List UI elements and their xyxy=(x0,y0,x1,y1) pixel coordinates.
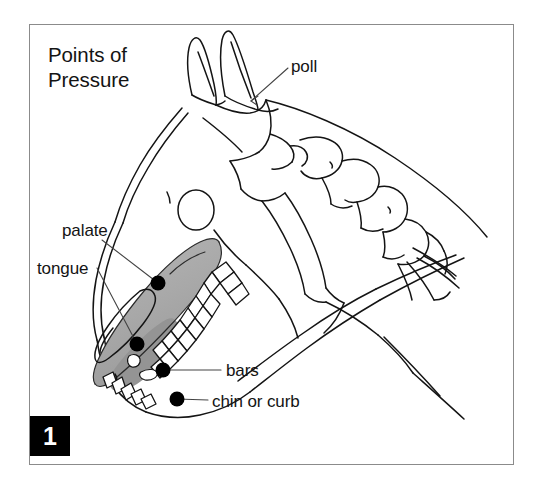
label-poll: poll xyxy=(291,57,317,77)
occipital-lower xyxy=(230,152,259,161)
cheek-lower xyxy=(279,299,298,338)
skull-forehead-outer xyxy=(115,108,182,222)
mandible-angle xyxy=(305,294,326,302)
label-chin-or-curb: chin or curb xyxy=(212,392,300,412)
label-tongue: tongue xyxy=(37,259,88,279)
neck-crease-line xyxy=(384,337,440,396)
figure-title: Points of Pressure xyxy=(48,42,129,92)
jowl-curve xyxy=(326,302,378,335)
figure-title-line-2: Pressure xyxy=(48,67,129,92)
mandible-ramus-back xyxy=(285,193,326,288)
occipital-condyle-lower xyxy=(272,162,292,169)
mandible-angle-back xyxy=(326,288,344,303)
bars-point-marker xyxy=(156,363,171,378)
jaw-line-lower-extend xyxy=(380,258,464,300)
chin-or-curb-point-marker xyxy=(170,392,185,407)
throat-latch xyxy=(378,335,413,373)
jaw-line-upper xyxy=(238,289,376,381)
figure-root: Points of Pressure poll palate tongue ba… xyxy=(0,0,543,497)
tongue-point-marker xyxy=(130,337,145,352)
occipital-condyle xyxy=(270,134,294,162)
eye-socket xyxy=(178,190,214,230)
leader-poll xyxy=(251,68,288,101)
label-bars: bars xyxy=(226,361,259,381)
ear-gap xyxy=(216,101,225,105)
neck-under-line xyxy=(413,373,464,419)
facial-crest-tick xyxy=(167,192,170,203)
cheek-mid xyxy=(246,265,279,299)
label-palate: palate xyxy=(62,221,108,241)
cervical-vertebrae xyxy=(300,137,447,274)
ear-front-icon xyxy=(188,38,217,105)
cranium-detail-1 xyxy=(203,118,242,152)
cranium-detail-4 xyxy=(262,193,285,201)
cranium-detail-3 xyxy=(241,189,262,201)
figure-title-line-1: Points of xyxy=(48,42,129,67)
cranium-detail-2 xyxy=(230,161,241,189)
ear-rear-icon xyxy=(221,31,258,110)
leader-palate xyxy=(102,240,158,283)
figure-number-badge: 1 xyxy=(30,416,70,456)
palate-point-marker xyxy=(151,276,166,291)
jaw-line-lower xyxy=(250,300,380,392)
